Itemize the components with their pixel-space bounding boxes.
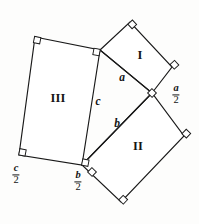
fraction-denominator: 2 [172, 96, 179, 107]
figure-canvas [0, 0, 199, 224]
fraction-numerator: a [172, 83, 179, 94]
side-label-c: c [95, 96, 100, 108]
fraction-label-c-over-2: c 2 [12, 163, 19, 186]
right-angle-icon [93, 48, 101, 56]
fraction-label-b-over-2: b 2 [74, 170, 81, 193]
right-angle-icon [82, 159, 90, 167]
region-label-II: II [133, 140, 143, 153]
fraction-denominator: 2 [74, 183, 81, 194]
geometry-figure: I II III a c b a 2 b 2 c 2 [0, 0, 199, 224]
fraction-numerator: b [74, 170, 81, 181]
side-label-a: a [119, 72, 125, 84]
right-angle-icon [19, 149, 27, 157]
fraction-denominator: 2 [12, 176, 19, 187]
fraction-numerator: c [13, 163, 20, 174]
right-angle-icon [33, 36, 41, 44]
fraction-label-a-over-2: a 2 [172, 83, 179, 106]
region-label-I: I [137, 49, 142, 62]
square-I-face [100, 22, 172, 93]
region-label-III: III [50, 92, 65, 105]
side-label-b: b [114, 118, 120, 130]
